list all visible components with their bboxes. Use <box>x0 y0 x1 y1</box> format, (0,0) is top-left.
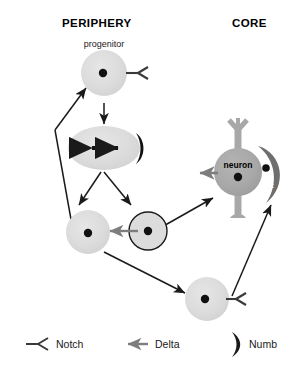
arrow-daughter-to-bottom <box>104 252 185 293</box>
arrow-recycle-upper <box>55 88 86 130</box>
legend-item-numb: Numb <box>232 332 277 357</box>
daughter-right-nucleus <box>144 227 152 235</box>
satellite-nucleus <box>262 164 270 172</box>
bottom-notch-icon <box>226 293 246 305</box>
progenitor-nucleus <box>99 69 107 77</box>
legend-item-delta: Delta <box>128 338 180 350</box>
legend: Notch Delta Numb <box>26 332 277 357</box>
daughter-left-nucleus <box>84 229 92 237</box>
bottom-cell-nucleus <box>201 295 209 303</box>
header-periphery: PERIPHERY <box>62 17 132 29</box>
cell-dividing <box>68 126 144 170</box>
legend-notch-label: Notch <box>56 338 84 350</box>
cell-daughter-left <box>66 210 110 254</box>
arrow-division-left <box>79 172 101 205</box>
arrow-division-right <box>104 172 131 205</box>
neuron-label: neuron <box>224 160 253 170</box>
legend-numb-label: Numb <box>249 338 277 350</box>
cell-daughter-right <box>110 212 167 250</box>
satellite-label: sat <box>262 181 274 190</box>
legend-delta-label: Delta <box>155 338 180 350</box>
progenitor-caption: progenitor <box>84 39 125 49</box>
cell-neuron: neuron <box>200 118 262 218</box>
cell-progenitor: progenitor <box>81 39 148 96</box>
legend-item-notch: Notch <box>26 338 84 350</box>
arrow-bottom-to-satellite <box>232 205 271 296</box>
notch-icon <box>126 67 148 79</box>
neuron-body <box>214 148 262 196</box>
neuron-axon-terminal <box>230 214 246 219</box>
cell-lineage-diagram: PERIPHERY CORE progenitor <box>0 0 307 365</box>
diagram-canvas: PERIPHERY CORE progenitor <box>0 0 307 365</box>
neuron-nucleus <box>234 173 242 181</box>
header-core: CORE <box>232 17 267 29</box>
legend-notch-icon <box>26 338 48 350</box>
arrow-daughter-to-neuron <box>160 198 213 228</box>
legend-numb-icon <box>232 332 240 357</box>
